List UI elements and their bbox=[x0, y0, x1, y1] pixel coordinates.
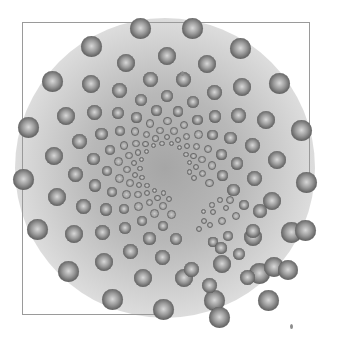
sphere bbox=[154, 195, 160, 201]
sphere bbox=[123, 166, 130, 173]
sphere bbox=[245, 138, 260, 153]
sphere bbox=[161, 190, 166, 195]
sphere bbox=[166, 196, 172, 202]
sphere bbox=[233, 78, 251, 96]
sphere bbox=[114, 157, 123, 166]
sphere bbox=[159, 202, 166, 209]
sphere bbox=[150, 209, 159, 218]
sphere bbox=[227, 184, 239, 196]
sphere bbox=[68, 167, 83, 182]
sphere bbox=[192, 115, 202, 125]
sphere bbox=[207, 130, 217, 140]
sphere bbox=[89, 179, 101, 191]
sphere bbox=[122, 190, 131, 199]
speck-mark bbox=[290, 324, 293, 329]
sphere bbox=[87, 153, 99, 165]
sphere bbox=[239, 200, 249, 210]
sphere bbox=[57, 107, 75, 125]
sphere bbox=[209, 110, 221, 122]
sphere bbox=[95, 128, 107, 140]
sphere bbox=[296, 172, 317, 193]
sphere bbox=[215, 242, 226, 253]
sphere bbox=[76, 199, 91, 214]
sphere bbox=[224, 132, 236, 144]
sphere bbox=[268, 151, 286, 169]
sphere bbox=[48, 188, 66, 206]
sphere bbox=[134, 269, 152, 287]
frame-top-edge bbox=[22, 22, 309, 23]
sphere bbox=[164, 134, 170, 140]
sphere bbox=[130, 18, 151, 39]
sphere bbox=[143, 72, 158, 87]
sphere bbox=[201, 218, 207, 224]
sphere bbox=[246, 224, 260, 238]
sphere bbox=[82, 75, 100, 93]
sphere bbox=[134, 202, 143, 211]
sphere bbox=[134, 191, 141, 198]
sphere bbox=[120, 141, 129, 150]
sphere bbox=[217, 170, 227, 180]
sphere bbox=[198, 156, 205, 163]
spiral-illusion-canvas bbox=[0, 0, 343, 343]
sphere bbox=[112, 83, 127, 98]
sphere bbox=[170, 127, 177, 134]
sphere bbox=[202, 278, 217, 293]
sphere bbox=[175, 137, 181, 143]
sphere bbox=[144, 149, 149, 154]
sphere bbox=[258, 290, 279, 311]
sphere bbox=[230, 38, 251, 59]
sphere bbox=[217, 197, 223, 203]
sphere bbox=[137, 166, 142, 171]
sphere bbox=[184, 262, 199, 277]
sphere bbox=[123, 244, 138, 259]
sphere bbox=[240, 270, 255, 285]
sphere bbox=[194, 130, 203, 139]
frame-bottom-edge bbox=[22, 314, 158, 315]
sphere bbox=[156, 127, 163, 134]
sphere bbox=[45, 147, 63, 165]
sphere bbox=[159, 141, 164, 146]
sphere bbox=[183, 152, 188, 157]
sphere bbox=[132, 140, 139, 147]
sphere bbox=[257, 111, 275, 129]
sphere bbox=[216, 149, 226, 159]
sphere bbox=[125, 152, 132, 159]
sphere bbox=[223, 231, 233, 241]
sphere bbox=[253, 204, 267, 218]
sphere bbox=[135, 149, 141, 155]
sphere bbox=[152, 135, 158, 141]
sphere bbox=[210, 209, 216, 215]
frame-left-edge bbox=[22, 22, 23, 314]
sphere bbox=[158, 221, 168, 231]
sphere bbox=[42, 71, 63, 92]
sphere bbox=[209, 202, 214, 207]
speck-mark bbox=[181, 71, 184, 76]
sphere bbox=[139, 175, 144, 180]
sphere bbox=[115, 174, 124, 183]
sphere bbox=[126, 179, 133, 186]
sphere bbox=[295, 220, 316, 241]
sphere bbox=[218, 217, 226, 225]
sphere bbox=[13, 169, 34, 190]
sphere bbox=[278, 260, 298, 280]
sphere bbox=[269, 73, 290, 94]
sphere bbox=[173, 106, 183, 116]
sphere bbox=[142, 141, 148, 147]
sphere bbox=[207, 85, 222, 100]
sphere bbox=[100, 203, 112, 215]
sphere bbox=[163, 117, 172, 126]
sphere bbox=[167, 210, 176, 219]
sphere bbox=[201, 209, 206, 214]
sphere bbox=[72, 134, 87, 149]
sphere bbox=[144, 183, 149, 188]
sphere bbox=[131, 112, 141, 122]
sphere bbox=[87, 105, 102, 120]
sphere bbox=[231, 157, 243, 169]
sphere bbox=[205, 179, 214, 188]
sphere bbox=[247, 171, 262, 186]
sphere bbox=[143, 232, 155, 244]
frame-right-edge bbox=[309, 22, 310, 180]
sphere bbox=[132, 172, 138, 178]
sphere bbox=[81, 36, 102, 57]
sphere bbox=[190, 153, 196, 159]
